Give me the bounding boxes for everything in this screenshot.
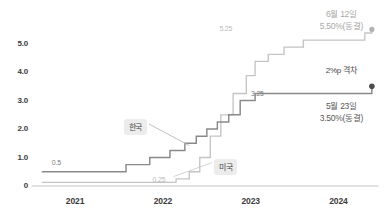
data-label-0-25: 0.25 [153,176,166,183]
x-axis-tick-2021: 2021 [52,196,98,206]
y-axis-tick-4-0: 4.0 [2,67,28,76]
series-tag-usa: 미국 [214,159,237,175]
korea-tag-leader-line [149,124,189,146]
data-label-0-5: 0.5 [52,159,61,166]
x-axis-tick-2023: 2023 [228,196,274,206]
y-axis-tick-1-0: 1.0 [2,153,28,162]
series-tag-korea: 한국 [124,119,147,135]
y-axis-tick-2-0: 2.0 [2,124,28,133]
annotation-usa-rate: 5.50%(동결) [320,20,363,32]
usa-endpoint-marker [369,27,374,32]
korea-endpoint-marker [369,84,375,90]
y-axis-tick-5-0: 5.0 [2,39,28,48]
usa-tag-leader-line [173,163,212,177]
x-axis-tick-2024: 2024 [315,196,361,206]
interest-rate-step-chart: 01.02.03.04.05.0 2021202220232024 0.50.2… [0,0,390,224]
korea-step-line [42,86,372,171]
annotation-korea-date: 5월 23일 [320,100,363,112]
data-label-5-25: 5.25 [219,25,232,32]
annotation-usa-date: 6월 12일 [320,8,363,20]
annotation-korea-latest: 5월 23일 3.50%(동결) [320,100,363,124]
annotation-korea-rate: 3.50%(동결) [320,112,363,124]
y-axis-tick-0: 0 [2,181,28,190]
annotation-gap-text: 2%p 격차 [326,65,356,77]
korea-series-group [42,84,375,172]
annotation-usa-latest: 6월 12일 5.50%(동결) [320,8,363,32]
x-axis-tick-2022: 2022 [140,196,186,206]
annotation-rate-gap: 2%p 격차 [326,65,356,77]
y-axis-tick-3-0: 3.0 [2,96,28,105]
data-label-3-25: 3.25 [251,90,264,97]
